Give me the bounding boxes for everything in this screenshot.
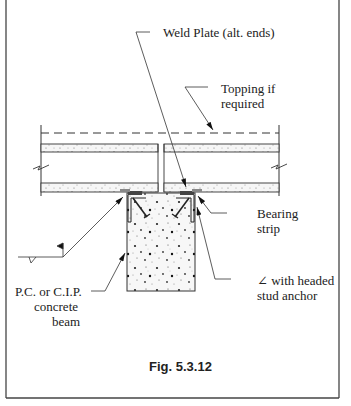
bearing-strip-label-line2: strip bbox=[257, 221, 280, 236]
angle-icon: ∠ bbox=[257, 273, 268, 288]
leader-angle bbox=[197, 207, 231, 279]
beam-label-line1: P.C. or C.I.P. bbox=[15, 284, 82, 299]
bearing-strip-label-line1: Bearing bbox=[257, 206, 298, 221]
leader-bearing-strip bbox=[198, 196, 227, 213]
angle-label-line2: stud anchor bbox=[257, 288, 317, 303]
concrete-beam bbox=[127, 193, 195, 291]
beam-label-line3: beam bbox=[52, 314, 80, 329]
leader-topping bbox=[185, 87, 213, 130]
weld-plate-label: Weld Plate (alt. ends) bbox=[163, 25, 275, 40]
angle-label-line1: ∠ with headed bbox=[257, 273, 334, 288]
beam-label-line2: concrete bbox=[34, 299, 78, 314]
slab-joint bbox=[158, 144, 164, 192]
leader-concrete-beam bbox=[91, 253, 125, 291]
bottom-flange bbox=[41, 183, 279, 192]
leader-weld-plate bbox=[136, 32, 186, 187]
topping-label-line2: required bbox=[221, 96, 264, 111]
diagram-drawing bbox=[0, 0, 351, 406]
weld-symbol bbox=[18, 197, 123, 263]
topping-label-line1: Topping if bbox=[221, 81, 275, 96]
figure-caption: Fig. 5.3.12 bbox=[149, 359, 212, 374]
connection-detail-diagram: Weld Plate (alt. ends) Topping if requir… bbox=[0, 0, 351, 406]
top-flange bbox=[41, 144, 279, 152]
